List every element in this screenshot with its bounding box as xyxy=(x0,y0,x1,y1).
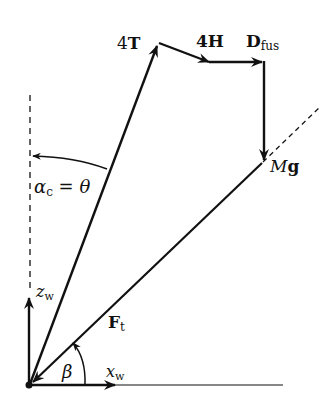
resultant-extension-dashed-line xyxy=(263,107,320,162)
beta-label: β xyxy=(61,361,72,382)
alpha-theta-label: αc = θ xyxy=(34,176,90,199)
alpha-angle-arc xyxy=(33,156,107,169)
thrust-vector-arrow xyxy=(30,46,157,384)
x-axis-label: xw xyxy=(106,362,125,383)
z-axis-label: zw xyxy=(35,282,54,303)
beta-angle-arc xyxy=(73,343,85,385)
thrust-label: 4T xyxy=(117,33,141,53)
force-diagram: 4T 4H Dfus Mg αc = θ Ft zw xw β xyxy=(0,0,328,408)
drag-label: Dfus xyxy=(246,31,279,53)
weight-label: Mg xyxy=(269,156,299,176)
hub-force-label: 4H xyxy=(196,31,224,51)
origin-point xyxy=(26,382,33,389)
resultant-force-label: Ft xyxy=(108,312,125,334)
